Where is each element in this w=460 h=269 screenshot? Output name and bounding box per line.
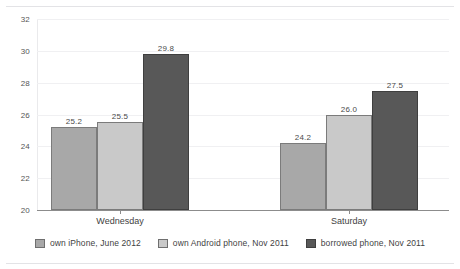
bar: 24.2 (280, 143, 326, 210)
x-axis-line (37, 210, 449, 211)
y-axis-tick-label: 20 (21, 206, 30, 215)
legend-item[interactable]: borrowed phone, Nov 2011 (306, 238, 425, 248)
legend-swatch-icon (158, 239, 168, 248)
legend-label: borrowed phone, Nov 2011 (321, 238, 425, 248)
bar-value-label: 25.5 (112, 112, 128, 121)
bar-value-label: 29.8 (158, 44, 174, 53)
bar: 25.5 (97, 122, 143, 210)
bar: 27.5 (372, 91, 418, 210)
y-axis-tick-label: 22 (21, 174, 30, 183)
y-axis-tick-label: 30 (21, 46, 30, 55)
bar: 26.0 (326, 115, 372, 211)
bar-value-label: 24.2 (295, 133, 311, 142)
bar: 29.8 (143, 54, 189, 210)
top-divider-rule (6, 6, 454, 7)
y-axis-tick-label: 28 (21, 78, 30, 87)
legend-item[interactable]: own iPhone, June 2012 (35, 238, 141, 248)
y-axis-tick-label: 32 (21, 15, 30, 24)
bar-value-label: 26.0 (341, 105, 357, 114)
legend-label: own iPhone, June 2012 (50, 238, 141, 248)
bottom-divider-rule (6, 263, 454, 264)
y-axis-tick-label: 24 (21, 142, 30, 151)
gridline (37, 19, 449, 20)
chart-legend: own iPhone, June 2012own Android phone, … (0, 238, 460, 248)
legend-swatch-icon (306, 239, 316, 248)
x-axis-category-label: Wednesday (96, 216, 143, 226)
bar: 25.2 (51, 127, 97, 210)
gridline (37, 51, 449, 52)
x-axis-category-label: Saturday (331, 216, 367, 226)
legend-swatch-icon (35, 239, 45, 248)
y-axis-tick-label: 26 (21, 110, 30, 119)
legend-item[interactable]: own Android phone, Nov 2011 (158, 238, 289, 248)
bar-chart-figure: 20222426283032 25.225.529.824.226.027.5 … (0, 0, 460, 269)
bar-value-label: 27.5 (387, 81, 403, 90)
legend-label: own Android phone, Nov 2011 (173, 238, 289, 248)
plot-area: 20222426283032 25.225.529.824.226.027.5 … (37, 19, 449, 210)
bar-value-label: 25.2 (66, 117, 82, 126)
